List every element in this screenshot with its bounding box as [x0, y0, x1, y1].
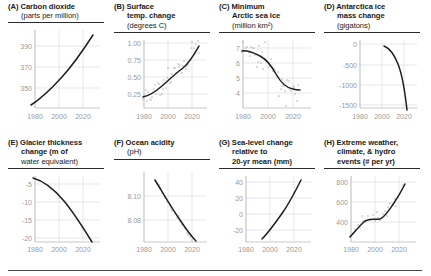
panel-H: (H) Extreme weather, climate, & hydro ev…	[318, 136, 423, 274]
panel-F-axes	[144, 172, 207, 242]
svg-text:2020: 2020	[184, 113, 200, 120]
panel-D-xticklabels: 1980 2000 2020	[352, 113, 412, 120]
svg-text:1980: 1980	[27, 246, 43, 253]
svg-text:-20: -20	[233, 227, 243, 234]
panel-B-scatter-points	[142, 40, 200, 102]
panel-G-axes	[246, 176, 311, 242]
svg-text:0: 0	[353, 41, 357, 48]
svg-text:-500: -500	[343, 62, 357, 69]
panel-H-xticklabels: 1980 2000 2020	[343, 246, 407, 253]
panel-H-axes	[351, 176, 416, 242]
svg-text:0.25: 0.25	[127, 91, 141, 98]
svg-text:2020: 2020	[285, 113, 301, 120]
panel-C-plot: 7 6 5 4 1980 2000 2020	[213, 0, 318, 138]
panel-E-axes	[35, 176, 100, 242]
panel-F-plot: 8.10 8.08 1980 2000 2020	[108, 136, 213, 274]
svg-text:1980: 1980	[235, 113, 251, 120]
panel-G-xticklabels: 1980 2000 2020	[238, 246, 302, 253]
panel-F: (F) Ocean acidity (pH) 8.10 8.08 1	[108, 136, 213, 274]
svg-text:2000: 2000	[367, 246, 383, 253]
panel-B-trend-line	[143, 46, 199, 97]
svg-text:800: 800	[336, 179, 348, 186]
svg-text:-10: -10	[22, 199, 32, 206]
svg-text:2020: 2020	[286, 246, 302, 253]
panel-C: (C) Minimum Arctic sea ice (million km²)…	[213, 0, 318, 138]
panel-H-gridlines	[351, 176, 416, 242]
panel-E-plot: -5 -10 -15 -20 1980 2000 2020	[2, 136, 107, 274]
svg-text:4: 4	[236, 90, 240, 97]
panel-A-xticklabels: 1980 2000 2020	[27, 113, 91, 120]
panel-C-xticklabels: 1980 2000 2020	[235, 113, 301, 120]
svg-text:2020: 2020	[184, 246, 200, 253]
svg-text:8.10: 8.10	[127, 193, 141, 200]
panel-G-plot: 40 20 0 -20 1980 2000 2020	[213, 136, 318, 274]
panel-C-trend-line	[242, 51, 300, 90]
svg-text:0.75: 0.75	[127, 57, 141, 64]
panel-D-trend-line	[384, 46, 407, 110]
panel-A-gridlines	[35, 30, 100, 108]
panel-F-trend-line	[155, 180, 196, 241]
svg-text:-15: -15	[22, 217, 32, 224]
panel-row-top: (A) Carbon dioxide (parts per million) 3…	[0, 0, 431, 138]
panel-B-xticklabels: 1980 2000 2020	[136, 113, 200, 120]
svg-text:2000: 2000	[262, 246, 278, 253]
panel-G-gridlines	[246, 176, 311, 242]
svg-text:1.00: 1.00	[127, 40, 141, 47]
svg-text:2000: 2000	[260, 113, 276, 120]
panel-D-gridlines	[360, 40, 417, 108]
svg-text:600: 600	[336, 199, 348, 206]
svg-text:-1500: -1500	[339, 102, 357, 109]
panel-G-yticklabels: 40 20 0 -20	[233, 179, 243, 234]
svg-text:2000: 2000	[51, 246, 67, 253]
panel-E-xticklabels: 1980 2000 2020	[27, 246, 91, 253]
panel-D-yticklabels: 0 -500 -1000 -1500	[339, 41, 357, 109]
svg-text:370: 370	[20, 64, 32, 71]
figure-bottom-divider	[8, 270, 422, 271]
panel-A-trend-line	[31, 35, 93, 105]
svg-text:400: 400	[336, 219, 348, 226]
panel-E: (E) Glacier thickness change (m of water…	[2, 136, 107, 274]
panel-A-axes	[35, 30, 100, 108]
svg-text:5: 5	[236, 75, 240, 82]
panel-E-yticklabels: -5 -10 -15 -20	[22, 181, 32, 242]
svg-text:1980: 1980	[27, 113, 43, 120]
panel-H-plot: 800 600 400 1980 2000 2020	[318, 136, 423, 274]
panel-C-gridlines	[243, 40, 311, 108]
svg-text:390: 390	[20, 43, 32, 50]
panel-B-plot: 1.00 0.75 0.50 0.25 1980 2000 2020	[108, 0, 213, 138]
svg-text:0: 0	[239, 211, 243, 218]
panel-row-bottom: (E) Glacier thickness change (m of water…	[0, 136, 431, 274]
panel-C-axes	[243, 40, 311, 108]
svg-text:2020: 2020	[391, 246, 407, 253]
panel-B-yticklabels: 1.00 0.75 0.50 0.25	[127, 40, 141, 98]
svg-text:1980: 1980	[343, 246, 359, 253]
svg-text:1980: 1980	[238, 246, 254, 253]
svg-text:8.08: 8.08	[127, 217, 141, 224]
panel-C-yticklabels: 7 6 5 4	[236, 45, 240, 97]
svg-text:2020: 2020	[75, 113, 91, 120]
panel-H-yticklabels: 800 600 400	[336, 179, 348, 226]
svg-text:7: 7	[236, 45, 240, 52]
panel-A-plot: 390 370 350 1980 2000 2020	[2, 0, 107, 138]
svg-text:0.50: 0.50	[127, 74, 141, 81]
svg-text:-20: -20	[22, 235, 32, 242]
panel-G: (G) Sea-level change relative to 20-yr m…	[213, 136, 318, 274]
svg-text:350: 350	[20, 85, 32, 92]
panel-D-axes	[360, 40, 417, 108]
panel-B: (B) Surface temp. change (degrees C) 1.0…	[108, 0, 213, 138]
panel-D: (D) Antarctica ice mass change (gigatons…	[318, 0, 423, 138]
climate-indicators-figure: (A) Carbon dioxide (parts per million) 3…	[0, 0, 431, 276]
svg-text:2020: 2020	[75, 246, 91, 253]
svg-text:1980: 1980	[352, 113, 368, 120]
svg-text:1980: 1980	[136, 113, 152, 120]
svg-text:-1000: -1000	[339, 82, 357, 89]
svg-text:6: 6	[236, 60, 240, 67]
panel-A: (A) Carbon dioxide (parts per million) 3…	[2, 0, 107, 138]
panel-F-gridlines	[144, 172, 207, 242]
panel-F-yticklabels: 8.10 8.08	[127, 193, 141, 224]
panel-C-scatter-points	[241, 41, 299, 107]
svg-text:2020: 2020	[396, 113, 412, 120]
svg-text:20: 20	[235, 195, 243, 202]
svg-text:2000: 2000	[51, 113, 67, 120]
panel-F-xticklabels: 1980 2000 2020	[136, 246, 200, 253]
